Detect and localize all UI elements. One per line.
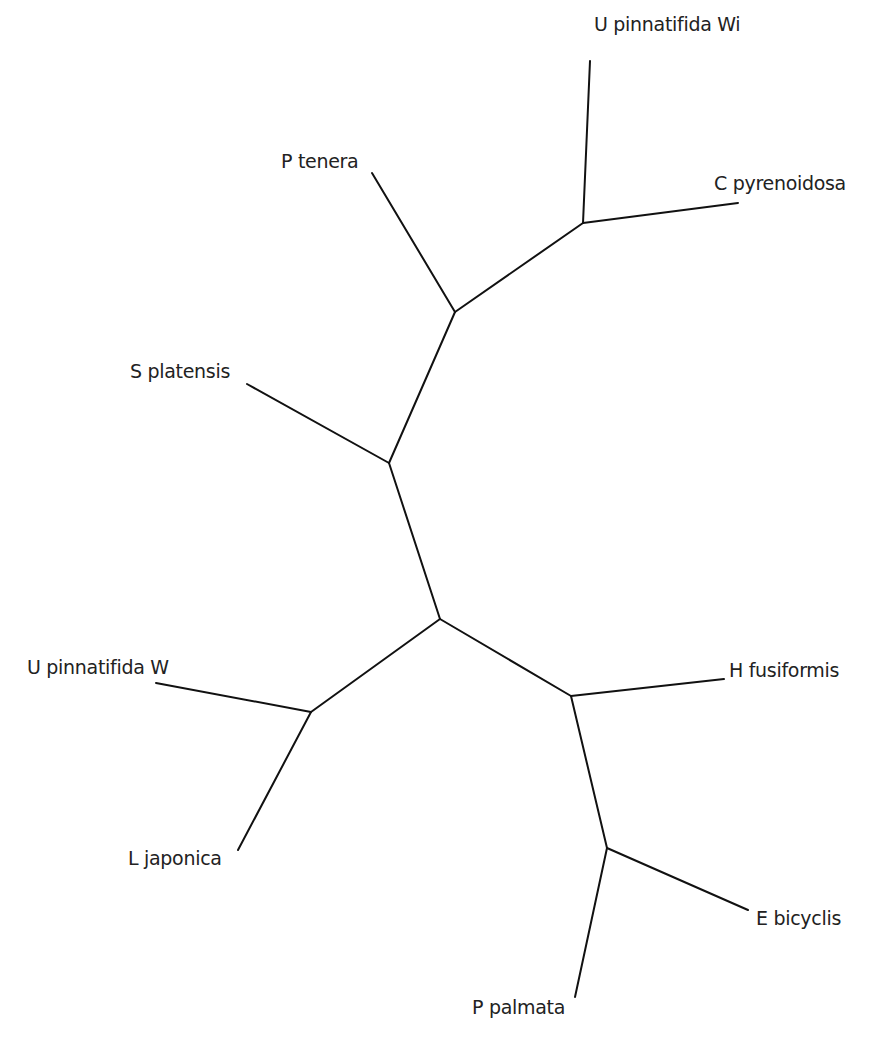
internal-branch bbox=[389, 463, 440, 619]
taxon-label: L japonica bbox=[128, 847, 222, 869]
internal-branch bbox=[389, 312, 455, 463]
terminal-branch bbox=[156, 683, 311, 712]
taxon-label: C pyrenoidosa bbox=[714, 172, 846, 194]
taxon-label: P palmata bbox=[472, 996, 565, 1018]
internal-branch bbox=[311, 619, 440, 712]
terminal-branch bbox=[571, 679, 724, 696]
internal-branch bbox=[440, 619, 571, 696]
terminal-branch bbox=[607, 848, 748, 910]
taxon-label: U pinnatifida W bbox=[27, 656, 169, 678]
internal-branch bbox=[571, 696, 607, 848]
taxon-label: S platensis bbox=[130, 360, 230, 382]
phylogenetic-tree: U pinnatifida WiC pyrenoidosaP teneraS p… bbox=[0, 0, 889, 1039]
terminal-branch bbox=[575, 848, 607, 997]
terminal-branch bbox=[583, 61, 590, 223]
terminal-branch bbox=[583, 203, 738, 223]
taxon-label: U pinnatifida Wi bbox=[594, 13, 740, 35]
taxon-label: H fusiformis bbox=[729, 659, 839, 681]
terminal-branch bbox=[372, 173, 455, 312]
taxon-label: P tenera bbox=[281, 150, 358, 172]
taxon-label: E bicyclis bbox=[756, 907, 841, 929]
internal-branch bbox=[455, 223, 583, 312]
terminal-branch bbox=[238, 712, 311, 850]
taxon-labels: U pinnatifida WiC pyrenoidosaP teneraS p… bbox=[27, 13, 846, 1018]
tree-branches bbox=[156, 61, 748, 997]
terminal-branch bbox=[247, 384, 389, 463]
